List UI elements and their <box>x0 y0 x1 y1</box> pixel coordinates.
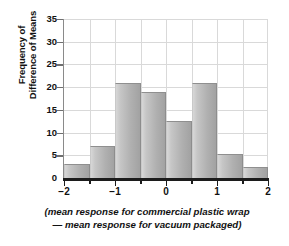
x-tick-mark-1p5 <box>242 181 244 185</box>
bar-bin-1 <box>64 164 90 178</box>
x-axis-caption: (mean response for commercial plastic wr… <box>22 205 272 231</box>
bar-bin-3 <box>115 83 141 178</box>
y-tick-label-30: 30 <box>35 37 57 47</box>
y-tick-label-10: 10 <box>35 128 57 138</box>
bar-bin-2 <box>90 146 116 178</box>
gridline-v-1p5 <box>243 19 244 178</box>
x-tick-label-1: 1 <box>204 186 230 197</box>
x-tick-label-neg1: −1 <box>102 186 128 197</box>
x-tick-label-2: 2 <box>255 186 281 197</box>
bar-bin-4 <box>141 92 167 178</box>
x-tick-label-0: 0 <box>153 186 179 197</box>
y-tick-label-20: 20 <box>35 82 57 92</box>
y-tick-label-0: 0 <box>35 173 57 183</box>
x-tick-mark-neg1p5 <box>89 181 91 185</box>
y-axis-label-line-1: Frequency of <box>16 26 27 84</box>
x-tick-mark-neg2 <box>64 181 66 186</box>
y-tick-label-35: 35 <box>35 14 57 24</box>
x-axis-caption-line-1: (mean response for commercial plastic wr… <box>22 205 272 218</box>
x-tick-mark-0p5 <box>191 181 193 185</box>
bar-bin-8 <box>243 167 269 178</box>
x-tick-mark-0 <box>166 181 168 186</box>
histogram-figure: Frequency of Difference of Means 35 30 2… <box>0 0 289 246</box>
gridline-v-2 <box>267 19 268 178</box>
y-tick-label-15: 15 <box>35 105 57 115</box>
x-tick-mark-1 <box>217 181 219 186</box>
bar-bin-7 <box>217 154 243 178</box>
x-axis-caption-line-2: — mean response for vacuum packaged) <box>22 218 272 231</box>
x-tick-mark-neg0p5 <box>140 181 142 185</box>
y-tick-label-5: 5 <box>35 150 57 160</box>
x-tick-mark-2 <box>268 181 270 186</box>
x-tick-label-neg2: −2 <box>51 186 77 197</box>
y-tick-label-25: 25 <box>35 59 57 69</box>
bar-bin-6 <box>192 83 218 178</box>
x-tick-mark-neg1 <box>115 181 117 186</box>
bar-bin-5 <box>166 121 192 178</box>
plot-area <box>64 19 268 178</box>
